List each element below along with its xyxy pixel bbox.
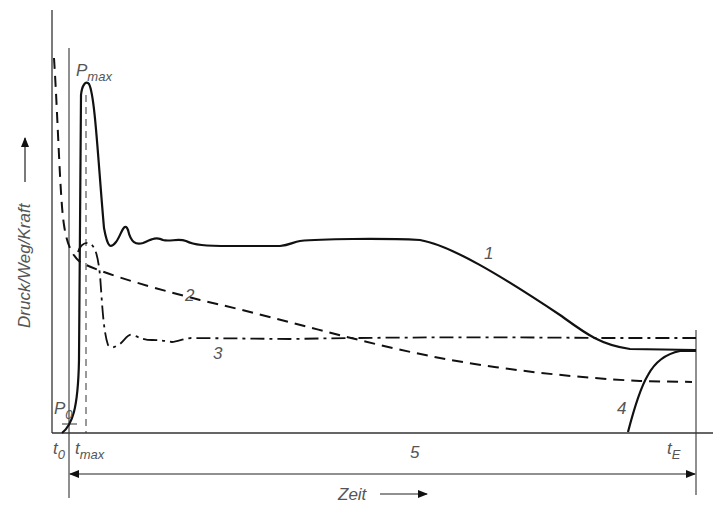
curve-3-label: 3 bbox=[213, 344, 223, 363]
curve-4 bbox=[628, 351, 696, 432]
y-axis-label: Druck/Weg/Kraft bbox=[15, 202, 34, 328]
pressure-time-diagram: Pmax P0 t0 tmax tE 1 2 3 4 5 Zeit Druck/… bbox=[0, 0, 720, 517]
pmax-label: Pmax bbox=[76, 61, 112, 84]
curve-2 bbox=[54, 58, 692, 382]
tE-label: tE bbox=[667, 439, 681, 462]
x-axis-label: Zeit bbox=[337, 485, 368, 504]
p0-label: P0 bbox=[54, 399, 73, 422]
t0-label: t0 bbox=[53, 439, 66, 462]
tmax-label: tmax bbox=[75, 439, 105, 462]
interval-5-label: 5 bbox=[410, 443, 420, 462]
curve-3 bbox=[78, 243, 696, 348]
curve-2-label: 2 bbox=[184, 286, 195, 305]
curve-1 bbox=[62, 83, 696, 433]
curve-4-label: 4 bbox=[617, 399, 626, 418]
curve-1-label: 1 bbox=[484, 244, 493, 263]
